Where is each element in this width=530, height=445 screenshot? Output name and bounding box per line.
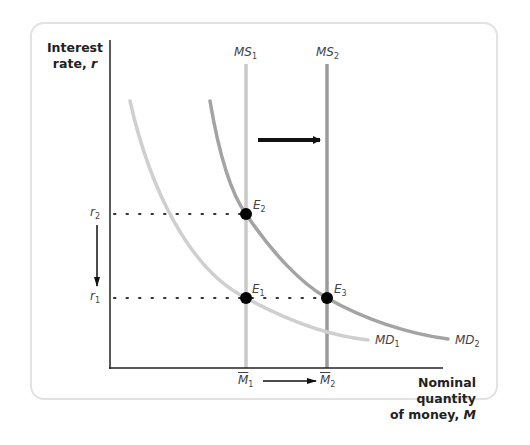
e3-label: E3 — [334, 282, 347, 298]
md2-label: MD2 — [455, 333, 480, 349]
x-axis-title-line2: of money, M — [356, 407, 476, 423]
e1-point — [240, 292, 252, 304]
e1-label: E1 — [252, 282, 265, 298]
ms2-label: MS2 — [316, 45, 339, 61]
ms1-label: MS1 — [234, 45, 257, 61]
e2-point — [240, 208, 252, 220]
x-axis-variable: M — [464, 407, 476, 422]
x-axis-title: Nominal quantity of money, M — [356, 375, 476, 423]
e3-point — [321, 292, 333, 304]
e2-label: E2 — [253, 198, 266, 214]
m2-tick-label: M2 — [320, 373, 335, 389]
y-axis-title-line1: Interest — [46, 40, 104, 56]
md1-label: MD1 — [375, 333, 400, 349]
y-axis-variable: r — [91, 56, 97, 71]
y-axis-title: Interest rate, r — [46, 40, 104, 72]
m1-tick-label: M1 — [238, 373, 253, 389]
r1-tick-label: r1 — [90, 289, 100, 305]
x-axis-title-line1: Nominal quantity — [356, 375, 476, 407]
r2-tick-label: r2 — [90, 205, 100, 221]
y-axis-title-line2: rate, r — [46, 56, 104, 72]
